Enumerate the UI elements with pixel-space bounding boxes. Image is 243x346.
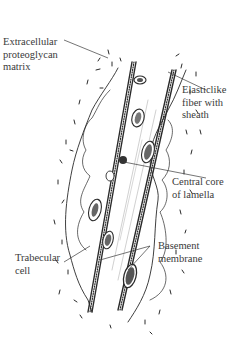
label-line: Extracellular: [3, 36, 58, 49]
label-line: Basement: [158, 240, 202, 253]
label-line: sheath: [182, 109, 226, 122]
label-line: membrane: [158, 253, 202, 266]
label-line: matrix: [3, 61, 58, 74]
label-line: cell: [15, 265, 60, 278]
label-line: Central core: [172, 176, 224, 189]
label-line: proteoglycan: [3, 49, 58, 62]
label-line: of lamella: [172, 189, 224, 202]
label-basement-membrane: Basement membrane: [158, 240, 202, 265]
label-line: Elasticlike: [182, 84, 226, 97]
label-line: Trabecular: [15, 252, 60, 265]
label-central-core: Central core of lamella: [172, 176, 224, 201]
label-elasticlike-fiber: Elasticlike fiber with sheath: [182, 84, 226, 122]
label-extracellular-proteoglycan-matrix: Extracellular proteoglycan matrix: [3, 36, 58, 74]
label-trabecular-cell: Trabecular cell: [15, 252, 60, 277]
label-line: fiber with: [182, 97, 226, 110]
